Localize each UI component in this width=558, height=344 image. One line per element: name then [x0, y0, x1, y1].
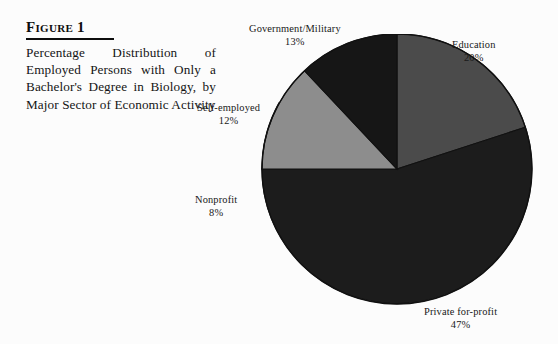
- pie-label-education: Education 20%: [452, 38, 495, 64]
- pie-chart: Government/Military 13% Education 20% Se…: [0, 0, 558, 344]
- pie-chart-svg: [255, 34, 545, 314]
- pie-label-government-military-name: Government/Military: [249, 22, 341, 35]
- pie-label-self-employed-name: Self-employed: [197, 101, 260, 114]
- pie-label-private-for-profit: Private for-profit 47%: [424, 305, 497, 331]
- figure-page: Figure 1 Percentage Distribution of Empl…: [0, 0, 558, 344]
- pie-label-nonprofit-value: 8%: [195, 206, 237, 219]
- pie-label-government-military-value: 13%: [249, 35, 341, 48]
- pie-label-government-military: Government/Military 13%: [249, 22, 341, 48]
- pie-label-self-employed: Self-employed 12%: [197, 101, 260, 127]
- pie-label-nonprofit-name: Nonprofit: [195, 193, 237, 206]
- pie-label-self-employed-value: 12%: [197, 114, 260, 127]
- pie-label-private-for-profit-name: Private for-profit: [424, 305, 497, 318]
- pie-label-private-for-profit-value: 47%: [424, 318, 497, 331]
- pie-label-nonprofit: Nonprofit 8%: [195, 193, 237, 219]
- pie-label-education-value: 20%: [452, 51, 495, 64]
- pie-label-education-name: Education: [452, 38, 495, 51]
